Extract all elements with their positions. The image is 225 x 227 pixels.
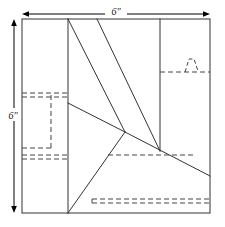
solid-fold-lines [68,19,210,213]
width-arrow-left-icon [22,11,29,17]
diagonal-to-right-line [125,132,210,176]
hidden-dashed-lines [22,72,210,203]
fold-diagram-figure: 6" 6" [0,0,225,227]
width-arrow-right-icon [203,11,210,17]
diagonal-short-upper-line [68,103,125,132]
height-dimension-label: 6" [8,110,18,121]
height-arrow-bottom-icon [11,206,17,213]
width-dimension-group: 6" [22,6,210,19]
fold-diagram-canvas: 6" 6" [0,0,225,227]
width-dimension-label: 6" [111,6,121,17]
diagonal-long-left-line [68,19,125,132]
hidden-zigzag-detail-icon [185,59,198,72]
diagonal-to-bottom-line [68,132,125,213]
square-sheet-outline [22,19,210,213]
diagonal-long-right-line [97,19,160,151]
height-dimension-group: 6" [4,19,24,213]
height-arrow-top-icon [11,19,17,26]
